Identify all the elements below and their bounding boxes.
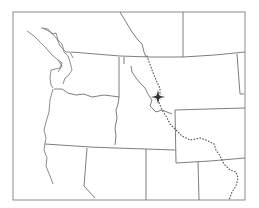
oregon-south-border bbox=[45, 144, 175, 150]
oregon-idaho-border bbox=[115, 97, 119, 145]
map bbox=[0, 0, 259, 208]
continental-divide bbox=[147, 56, 238, 200]
oregon-coast bbox=[44, 89, 53, 184]
california-nevada-border bbox=[84, 148, 95, 198]
washington-oregon-border bbox=[54, 89, 119, 97]
montana-wyoming-border bbox=[175, 108, 245, 110]
canada-us-border bbox=[71, 52, 245, 57]
vancouver-island bbox=[43, 28, 70, 52]
idaho-panhandle bbox=[131, 66, 172, 114]
north-dakota-border bbox=[237, 54, 244, 94]
wyoming-south-border bbox=[176, 158, 245, 163]
map-frame bbox=[13, 12, 245, 200]
map-canvas bbox=[0, 0, 259, 208]
compass-star-icon bbox=[151, 90, 165, 104]
wyoming-west-border bbox=[175, 110, 176, 163]
washington-coast bbox=[27, 31, 62, 88]
puget-sound bbox=[41, 28, 73, 84]
utah-colorado-border bbox=[198, 162, 199, 200]
